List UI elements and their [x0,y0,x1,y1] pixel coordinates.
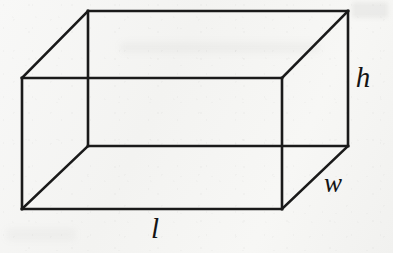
dimension-label-width: w [324,170,342,197]
dimension-label-length: l [151,214,159,243]
dimension-label-height: h [356,63,371,92]
edge-depth-bottom-left [22,146,88,209]
rectangular-prism-drawing [0,0,393,253]
edge-depth-top-right [282,11,348,78]
edge-depth-top-left [22,11,88,78]
prism-diagram-figure: h w l [0,0,393,253]
